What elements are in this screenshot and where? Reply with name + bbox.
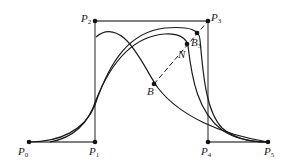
label-p1: P1 (89, 146, 99, 159)
label-b: B (147, 86, 154, 97)
label-p2: P2 (81, 13, 91, 26)
label-p5: P5 (264, 146, 274, 159)
point-p0 (27, 140, 32, 145)
point-b3 (185, 42, 190, 47)
point-p1 (93, 140, 98, 145)
label-n: N (178, 49, 185, 60)
bezier-diagram (0, 0, 290, 165)
label-p3: P3 (211, 12, 221, 25)
point-p5 (266, 140, 271, 145)
point-p2 (93, 19, 98, 24)
curve-inner (50, 34, 268, 142)
label-p4: P4 (201, 146, 211, 159)
control-polygon (29, 21, 268, 142)
label-b3: B3 (191, 37, 201, 50)
point-p4 (206, 140, 211, 145)
label-p0: P0 (18, 146, 28, 159)
point-p3 (206, 19, 211, 24)
point-upper-diagonal (195, 31, 200, 36)
